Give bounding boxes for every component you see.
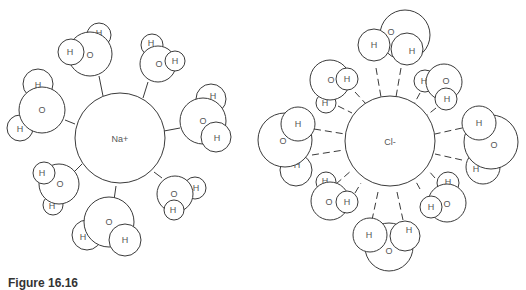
sodium-ion-label: Na+ (112, 134, 129, 144)
dashed-bond-line (426, 108, 436, 116)
atom-label: O (56, 179, 63, 189)
dashed-bond-line (376, 68, 381, 97)
water-molecule: H O H (157, 176, 206, 220)
atom-label: H (366, 230, 373, 240)
dashed-bond-line (435, 154, 462, 160)
bond-line (74, 164, 82, 172)
chloride-hydration-shell: O H H H O H H O H H O (258, 10, 518, 271)
atom-label: H (476, 118, 483, 128)
figure-caption: Figure 16.16 (8, 276, 78, 290)
water-molecule: H O H (311, 172, 358, 220)
water-molecule: O H H (353, 218, 420, 271)
atom-label: O (387, 27, 394, 37)
atom-label: H (214, 133, 221, 143)
sodium-hydration-shell: H O H H O H H H O H O (7, 23, 231, 256)
bond-line (143, 82, 148, 98)
atom-label: H (193, 183, 200, 193)
atom-label: H (17, 124, 24, 134)
water-molecule: H O H (420, 172, 466, 222)
atom-label: O (279, 136, 286, 146)
atom-label: O (327, 75, 334, 85)
atom-label: O (86, 50, 93, 60)
dashed-bond-line (435, 128, 462, 134)
water-molecule: H O H (180, 84, 231, 152)
figure-caption-label: Figure 16.16 (8, 276, 78, 290)
atom-label: H (80, 232, 87, 242)
atom-label: H (344, 74, 351, 84)
atom-label: H (344, 197, 351, 207)
water-molecule: H O H (58, 23, 112, 76)
atom-label: H (371, 40, 378, 50)
atom-label: H (444, 94, 451, 104)
bond-line (164, 128, 180, 131)
water-molecule: H O H (72, 197, 141, 256)
atom-label: H (67, 47, 74, 57)
water-molecule: H O H (33, 162, 79, 215)
atom-label: H (122, 235, 129, 245)
dashed-bond-line (372, 192, 378, 220)
dashed-bond-line (428, 170, 435, 178)
water-molecule: H O H (462, 106, 518, 184)
dashed-bond-line (397, 192, 403, 220)
dashed-bond-line (314, 129, 345, 134)
chloride-ion-label: Cl- (384, 137, 396, 147)
atom-label: O (105, 217, 112, 227)
atom-label: O (170, 189, 177, 199)
atom-label: O (199, 116, 206, 126)
atom-label: H (409, 46, 416, 56)
water-molecule: H O H (258, 107, 315, 186)
atom-label: H (295, 119, 302, 129)
dashed-bond-line (338, 106, 352, 113)
hydrogen-atom (391, 33, 423, 65)
atom-label: O (490, 140, 497, 150)
water-molecule: H H O (7, 69, 65, 141)
dashed-bond-line (414, 93, 420, 104)
dashed-bond-line (415, 180, 420, 189)
dashed-bond-line (355, 92, 366, 104)
atom-label: H (170, 205, 177, 215)
dashed-bond-line (312, 150, 344, 155)
water-molecule: O H H (358, 10, 430, 65)
atom-label: O (38, 105, 45, 115)
atom-label: O (385, 246, 392, 256)
dashed-bond-line (396, 68, 401, 97)
atom-label: H (428, 202, 435, 212)
water-molecule: H O H (414, 64, 462, 110)
atom-label: H (172, 56, 179, 66)
atom-label: O (325, 197, 332, 207)
atom-label: H (406, 225, 413, 235)
dashed-bond-line (355, 183, 361, 193)
atom-label: O (155, 59, 162, 69)
dashed-bond-line (336, 170, 352, 184)
water-molecule: H O H (140, 34, 185, 82)
water-molecule: H O H (310, 60, 358, 113)
bond-line (99, 76, 103, 96)
atom-label: O (442, 76, 449, 86)
atom-label: O (443, 199, 450, 209)
bond-line (154, 172, 162, 178)
atom-label: H (39, 168, 46, 178)
bond-line (65, 120, 75, 124)
